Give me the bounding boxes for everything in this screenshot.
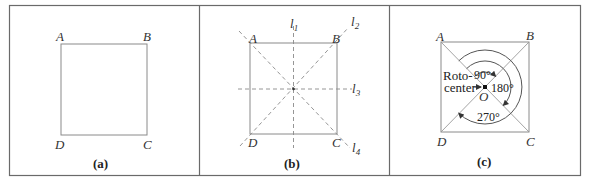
panel-caption: (c)	[477, 154, 491, 169]
vertex-label-c: C	[143, 137, 152, 152]
vertex-label-d: D	[436, 134, 447, 149]
vertex-label-c: C	[332, 135, 341, 150]
vertex-label-c: C	[526, 134, 535, 149]
axis-label-l1: l1	[290, 16, 298, 33]
panel-b: A B D C l1 l2 l3 l4 (b)	[238, 14, 361, 171]
axis-label-l2: l2	[351, 14, 360, 31]
vertex-label-b: B	[332, 31, 340, 46]
center-point	[292, 88, 295, 91]
axis-label-l4: l4	[352, 140, 361, 157]
vertex-label-a: A	[55, 29, 64, 44]
vertex-label-d: D	[247, 135, 258, 150]
panel-caption: (b)	[284, 156, 300, 171]
symmetry-figure: A B D C (a) A B D C l1 l2 l3 l4 (b)	[0, 0, 590, 184]
angle-label-270: 270°	[477, 110, 500, 124]
axis-label-l3: l3	[352, 81, 361, 98]
vertex-label-a: A	[248, 31, 257, 46]
panel-a: A B D C (a)	[54, 29, 152, 171]
vertex-label-a: A	[435, 29, 444, 44]
panel-caption: (a)	[93, 156, 108, 171]
vertex-label-b: B	[143, 29, 151, 44]
vertex-label-b: B	[526, 28, 534, 43]
vertex-label-d: D	[54, 137, 65, 152]
center-label-o: O	[479, 89, 489, 104]
square	[61, 44, 147, 135]
panel-c: A B D C O Roto- center 90° 180° 270° (c)	[435, 28, 535, 169]
angle-label-180: 180°	[491, 81, 514, 95]
angle-label-90: 90°	[474, 68, 491, 82]
rotocenter-label-line2: center	[444, 80, 476, 95]
